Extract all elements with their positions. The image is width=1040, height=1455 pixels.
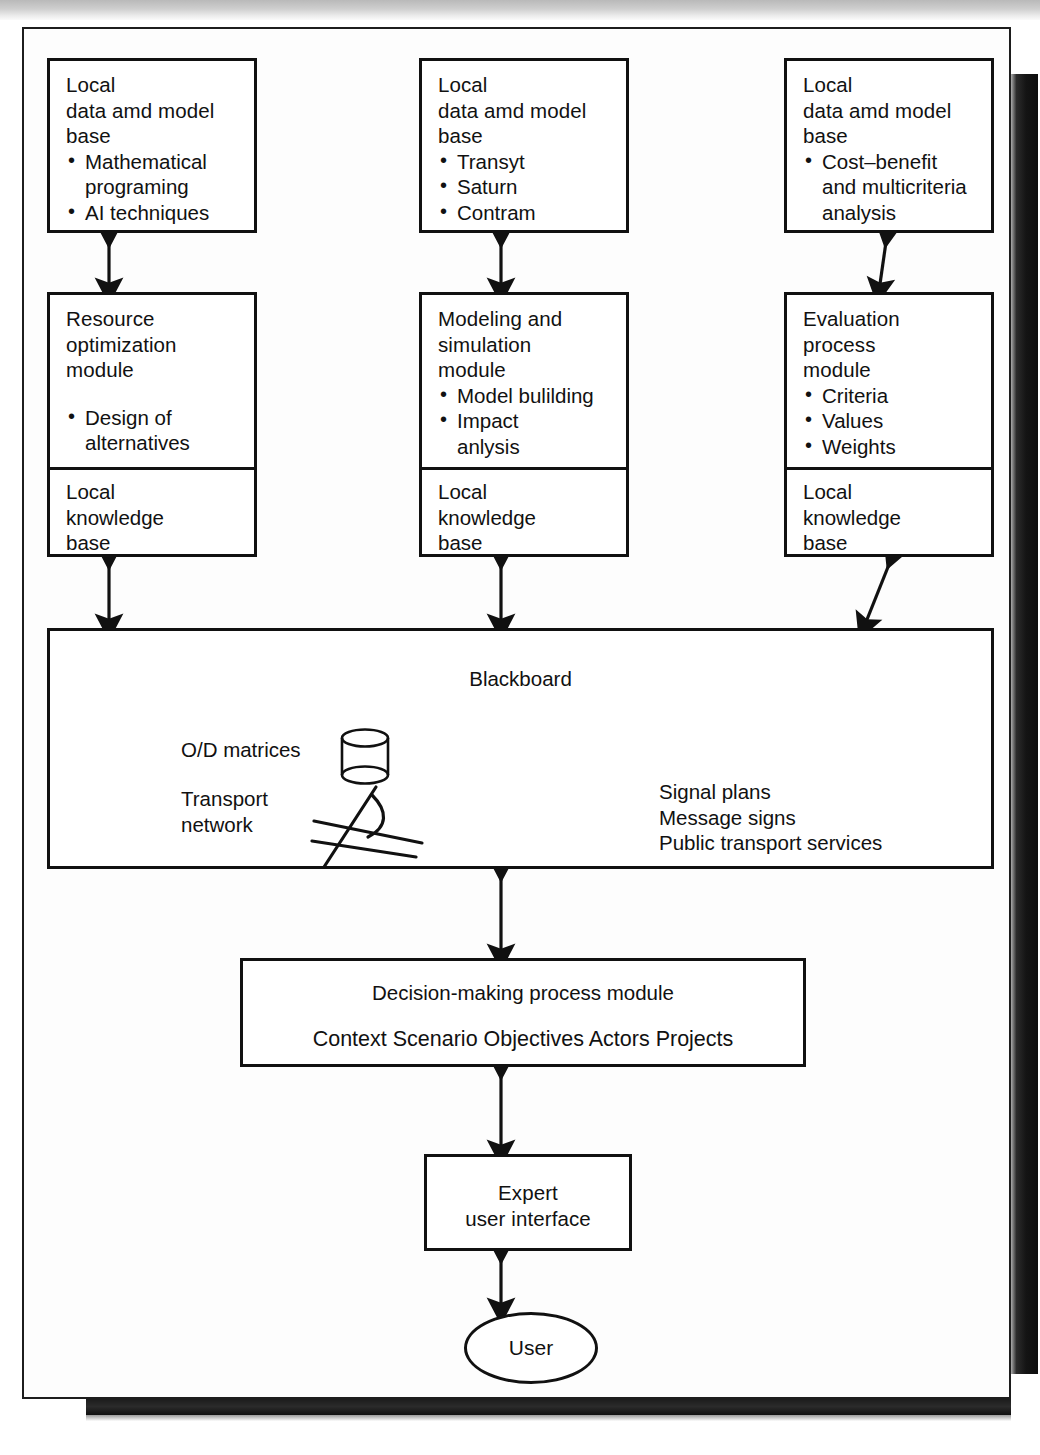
decision-making-process-module-box: Decision-making process module Context S…: [240, 958, 806, 1067]
module-title: Evaluation process module: [803, 306, 977, 383]
decision-module-items: Context Scenario Objectives Actors Proje…: [243, 1027, 803, 1052]
scan-gutter-shadow: [1008, 74, 1038, 1374]
user-node: User: [464, 1312, 598, 1384]
bullet-item: Contram: [438, 200, 612, 226]
page-frame: Local data amd model base Mathematical p…: [22, 27, 1011, 1399]
bullet-item: AI techniques: [66, 200, 240, 226]
bullet-item: Model bulilding: [438, 383, 612, 409]
bullet-list: Cost–benefit and multicriteria analysis: [803, 149, 977, 226]
knowledge-base-divider: [422, 467, 626, 470]
module-title: Modeling and simulation module: [438, 306, 612, 383]
bullet-list: Criteria Values Weights: [803, 383, 977, 460]
local-knowledge-base-label: Local knowledge base: [803, 479, 901, 556]
local-data-model-base-box-2: Local data amd model base Transyt Saturn…: [419, 58, 629, 233]
bullet-item: Cost–benefit and multicriteria analysis: [803, 149, 977, 226]
scan-bottom-shadow: [86, 1415, 1011, 1421]
scan-bottom-edge: [86, 1398, 1011, 1415]
bullet-list: Transyt Saturn Contram: [438, 149, 612, 226]
bullet-item: Criteria: [803, 383, 977, 409]
knowledge-base-divider: [787, 467, 991, 470]
bullet-item: Impact anlysis: [438, 408, 612, 459]
user-label: User: [509, 1336, 553, 1360]
expert-user-interface-box: Expert user interface: [424, 1154, 632, 1251]
box-title: Local data amd model base: [66, 72, 240, 149]
bullet-list: Design of alternatives: [66, 405, 240, 456]
road-network-icon: [310, 781, 430, 873]
evaluation-process-module-box: Evaluation process module Criteria Value…: [784, 292, 994, 557]
box-title: Local data amd model base: [438, 72, 612, 149]
blackboard-label: Blackboard: [50, 667, 991, 691]
database-cylinder-icon: [336, 727, 394, 789]
local-data-model-base-box-3: Local data amd model base Cost–benefit a…: [784, 58, 994, 233]
bullet-item: Weights: [803, 434, 977, 460]
local-data-model-base-box-1: Local data amd model base Mathematical p…: [47, 58, 257, 233]
bullet-item: Values: [803, 408, 977, 434]
local-knowledge-base-label: Local knowledge base: [438, 479, 536, 556]
knowledge-base-divider: [50, 467, 254, 470]
bullet-item: Design of alternatives: [66, 405, 240, 456]
local-knowledge-base-label: Local knowledge base: [66, 479, 164, 556]
resource-optimization-module-box: Resource optimization module Design of a…: [47, 292, 257, 557]
bullet-list: Model bulilding Impact anlysis: [438, 383, 612, 460]
blackboard-box: Blackboard O/D matrices Transport networ…: [47, 628, 994, 869]
bullet-item: Transyt: [438, 149, 612, 175]
bullet-list: Mathematical programing AI techniques: [66, 149, 240, 226]
bullet-item: Mathematical programing: [66, 149, 240, 200]
bullet-item: Saturn: [438, 174, 612, 200]
box-title: Local data amd model base: [803, 72, 977, 149]
scan-top-band: [0, 0, 1040, 20]
blackboard-od-matrices-label: O/D matrices: [181, 737, 301, 763]
blackboard-outputs-label: Signal plans Message signs Public transp…: [659, 779, 882, 856]
modeling-simulation-module-box: Modeling and simulation module Model bul…: [419, 292, 629, 557]
interface-title: Expert user interface: [427, 1180, 629, 1231]
module-title: Resource optimization module: [66, 306, 240, 383]
decision-module-title: Decision-making process module: [243, 981, 803, 1005]
blackboard-transport-network-label: Transport network: [181, 786, 268, 837]
